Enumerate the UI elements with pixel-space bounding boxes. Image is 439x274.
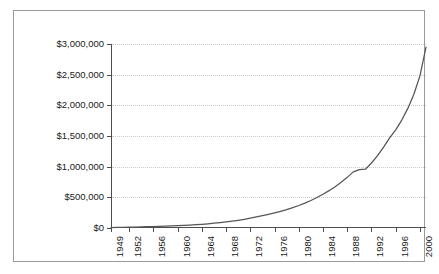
chart-outer-border: $0$500,000$1,000,000$1,500,000$2,000,000…	[13, 10, 425, 262]
x-axis-tick	[299, 228, 300, 232]
x-axis-label: 1949	[115, 236, 125, 257]
x-axis-tick	[347, 228, 348, 232]
x-axis-tick	[111, 228, 112, 232]
x-axis-label: 1996	[400, 236, 410, 257]
x-axis-label: 1976	[279, 236, 289, 257]
x-axis-label: 2000	[424, 236, 434, 257]
x-axis-label: 1964	[206, 236, 216, 257]
x-axis-tick	[371, 228, 372, 232]
y-axis-label: $3,000,000	[56, 39, 104, 49]
y-axis-label: $1,500,000	[56, 131, 104, 141]
data-series-svg	[111, 44, 426, 228]
y-axis-label: $0	[93, 223, 104, 233]
chart-figure: $0$500,000$1,000,000$1,500,000$2,000,000…	[0, 0, 439, 274]
x-axis-label: 1956	[157, 236, 167, 257]
x-axis-label: 1972	[254, 236, 264, 257]
y-axis-label: $2,500,000	[56, 70, 104, 80]
x-axis-label: 1952	[133, 236, 143, 257]
x-axis-tick	[275, 228, 276, 232]
y-axis-label: $500,000	[64, 193, 104, 203]
x-axis-tick	[420, 228, 421, 232]
x-axis-tick	[250, 228, 251, 232]
x-axis-label: 1992	[375, 236, 385, 257]
x-axis-label: 1960	[182, 236, 192, 257]
x-axis-label: 1984	[327, 236, 337, 257]
x-axis-tick	[153, 228, 154, 232]
x-axis-label: 1988	[351, 236, 361, 257]
x-axis-tick	[202, 228, 203, 232]
x-axis-label: 1968	[230, 236, 240, 257]
series-line-value	[111, 47, 426, 227]
x-axis-tick	[178, 228, 179, 232]
y-axis-label: $2,000,000	[56, 101, 104, 111]
x-axis-tick	[396, 228, 397, 232]
x-axis-label: 1980	[303, 236, 313, 257]
plot-area: $0$500,000$1,000,000$1,500,000$2,000,000…	[111, 44, 426, 228]
x-axis-tick	[323, 228, 324, 232]
y-axis-label: $1,000,000	[56, 162, 104, 172]
x-axis-tick	[226, 228, 227, 232]
x-axis-tick	[129, 228, 130, 232]
